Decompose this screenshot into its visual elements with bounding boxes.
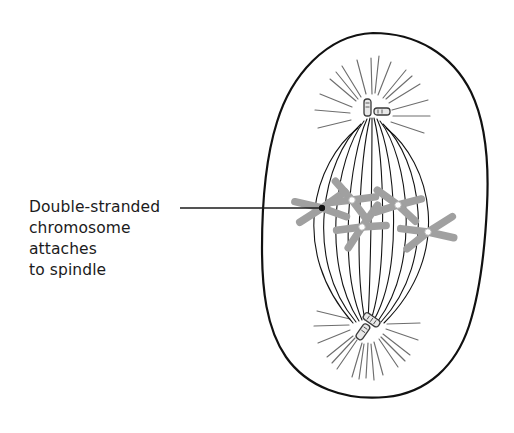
figure-page: Double-stranded chromosome attaches to s… (0, 0, 514, 433)
callout-line-3: attaches (29, 239, 219, 260)
callout-label: Double-stranded chromosome attaches to s… (29, 197, 219, 281)
callout-line-4: to spindle (29, 260, 219, 281)
callout-line-2: chromosome (29, 218, 219, 239)
centriole-vertical (364, 99, 371, 116)
callout-leader-dot (319, 205, 325, 211)
callout-line-1: Double-stranded (29, 197, 219, 218)
